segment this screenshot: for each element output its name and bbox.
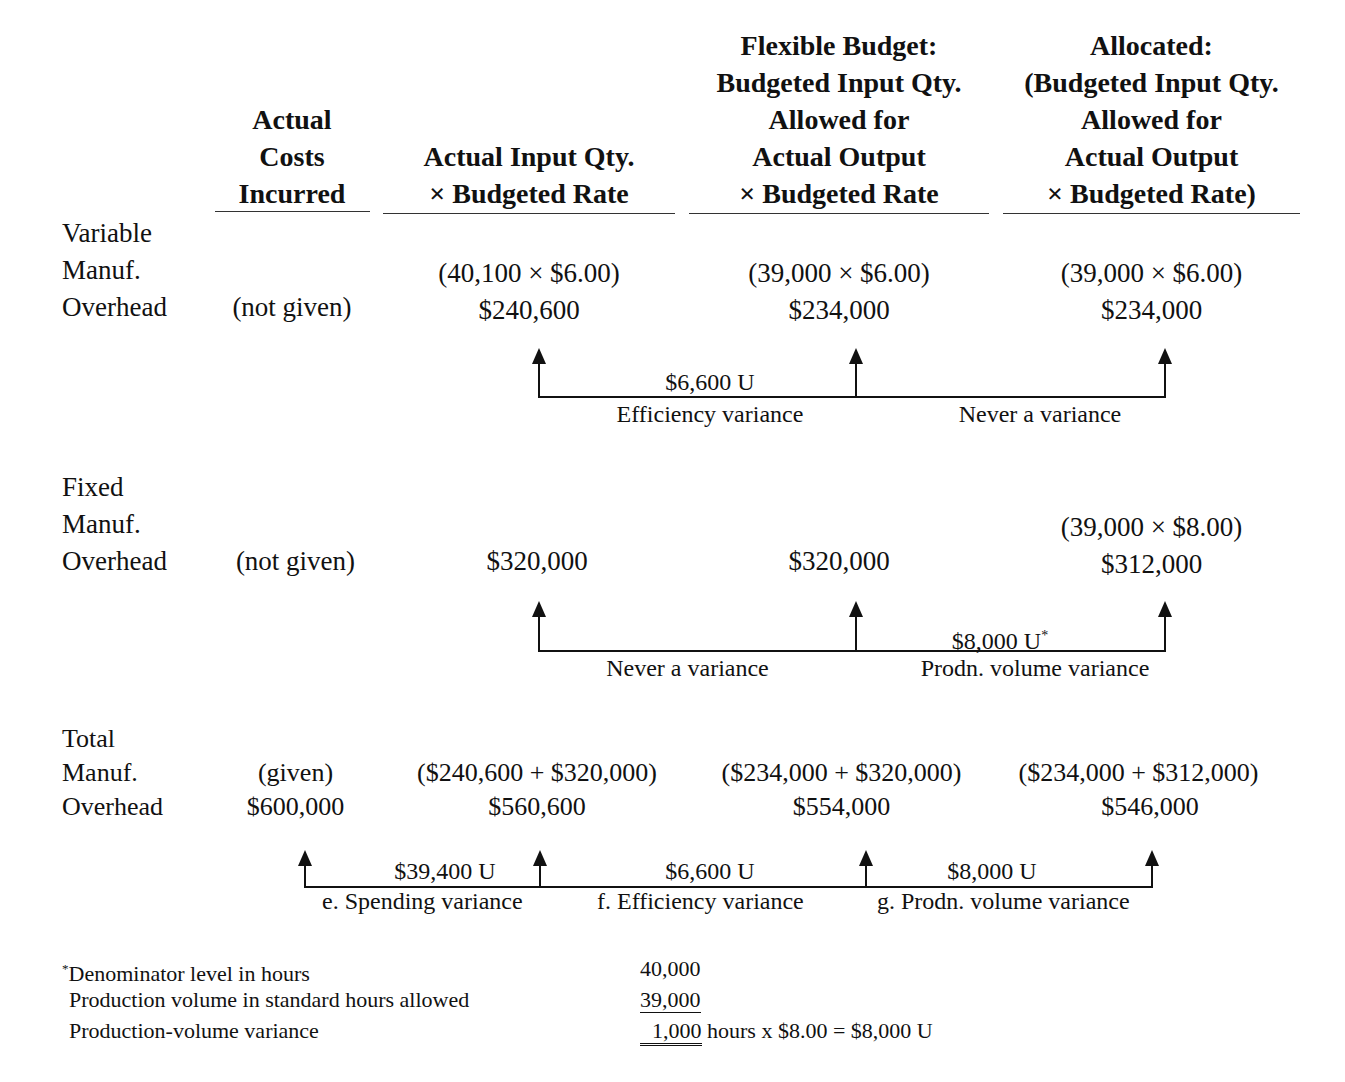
total-col2-calc: ($240,600 + $320,000)	[383, 756, 691, 790]
footnote-label: Denominator level in hours	[69, 961, 310, 986]
header-underline	[215, 211, 370, 212]
total-col4-calc: ($234,000 + $312,000)	[1000, 756, 1277, 790]
arrow-up-icon	[1158, 601, 1172, 617]
total-spending-amount: $39,400 U	[365, 856, 525, 887]
header-underline	[689, 213, 989, 214]
footnote-marker: *	[1041, 628, 1048, 643]
arrow-up-icon	[1158, 348, 1172, 364]
footnote-value-denominator: 40,000	[640, 953, 701, 984]
variable-col2-calc: (40,100 × $6.00)	[383, 255, 675, 292]
header-actual-input-qty: Actual Input Qty. × Budgeted Rate	[383, 138, 675, 212]
footnote-row-volume-variance: Production-volume variance	[69, 1015, 319, 1046]
total-actual-calc: (given)	[213, 756, 378, 790]
row-label-variable: Variable Manuf. Overhead	[62, 215, 167, 326]
header-underline	[1003, 213, 1300, 214]
arrow-up-icon	[1145, 850, 1159, 866]
row-label-total: Total Manuf. Overhead	[62, 722, 163, 824]
arrow-up-icon	[532, 348, 546, 364]
arrow-up-icon	[532, 601, 546, 617]
variable-col3-value: $234,000	[689, 292, 989, 329]
total-col3-calc: ($234,000 + $320,000)	[689, 756, 994, 790]
total-col4-value: $546,000	[1000, 790, 1300, 824]
footnote-value-text: 1,000	[640, 1018, 702, 1046]
arrow-up-icon	[849, 348, 863, 364]
footnote-calc-text: hours x $8.00 = $8,000 U	[702, 1018, 933, 1043]
variable-efficiency-amount: $6,600 U	[600, 367, 820, 398]
footnote-value-text: 39,000	[640, 987, 701, 1013]
footnote-row-production: Production volume in standard hours allo…	[69, 984, 469, 1015]
header-allocated: Allocated: (Budgeted Input Qty. Allowed …	[1003, 27, 1300, 212]
footnote-value-volume-variance: 1,000 hours x $8.00 = $8,000 U	[640, 1015, 933, 1046]
variable-efficiency-label: Efficiency variance	[590, 399, 830, 430]
fixed-volume-amount-text: $8,000 U	[952, 628, 1041, 654]
arrow-up-icon	[859, 850, 873, 866]
footnote-value-production: 39,000	[640, 984, 701, 1015]
fixed-col2-value: $320,000	[383, 543, 691, 580]
variable-col4-value: $234,000	[1003, 292, 1300, 329]
arrow-up-icon	[849, 601, 863, 617]
fixed-volume-amount: $8,000 U*	[930, 620, 1070, 657]
fixed-never-label: Never a variance	[575, 653, 800, 684]
fixed-volume-label: Prodn. volume variance	[895, 653, 1175, 684]
header-flexible-budget: Flexible Budget: Budgeted Input Qty. All…	[689, 27, 989, 212]
variable-never-label: Never a variance	[920, 399, 1160, 430]
total-volume-label: g. Prodn. volume variance	[877, 886, 1130, 917]
total-volume-amount: $8,000 U	[912, 856, 1072, 887]
variable-col4-calc: (39,000 × $6.00)	[1003, 255, 1300, 292]
total-col3-value: $554,000	[689, 790, 994, 824]
header-underline	[383, 213, 675, 214]
arrow-up-icon	[298, 850, 312, 866]
total-actual-value: $600,000	[213, 790, 378, 824]
header-actual-costs: Actual Costs Incurred	[213, 101, 371, 212]
total-efficiency-amount: $6,600 U	[630, 856, 790, 887]
fixed-col3-value: $320,000	[689, 543, 989, 580]
total-efficiency-label: f. Efficiency variance	[597, 886, 804, 917]
variable-actual: (not given)	[213, 289, 371, 326]
variable-col3-calc: (39,000 × $6.00)	[689, 255, 989, 292]
arrow-up-icon	[533, 850, 547, 866]
total-spending-label: e. Spending variance	[322, 886, 523, 917]
fixed-col4-calc: (39,000 × $8.00)	[1003, 509, 1300, 546]
total-col2-value: $560,600	[383, 790, 691, 824]
fixed-actual: (not given)	[213, 543, 378, 580]
row-label-fixed: Fixed Manuf. Overhead	[62, 469, 167, 580]
fixed-col4-value: $312,000	[1003, 546, 1300, 583]
variable-col2-value: $240,600	[383, 292, 675, 329]
